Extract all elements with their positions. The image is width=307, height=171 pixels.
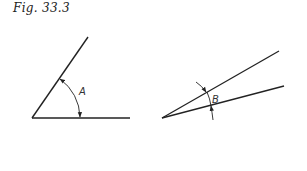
angle-diagram: A B [0, 0, 307, 171]
angle-b-upper-ray [162, 51, 279, 118]
angle-a-label: A [78, 86, 86, 97]
angle-b-arrow-top [196, 82, 206, 92]
angle-b-arc [207, 92, 211, 106]
angle-a-arc [60, 79, 80, 117]
angle-b: B [162, 51, 284, 120]
angle-b-lower-ray [162, 86, 284, 118]
angle-a: A [32, 37, 130, 118]
angle-a-upper-ray [32, 37, 88, 118]
angle-b-arrow-bottom [211, 106, 213, 120]
angle-b-label: B [212, 94, 219, 105]
